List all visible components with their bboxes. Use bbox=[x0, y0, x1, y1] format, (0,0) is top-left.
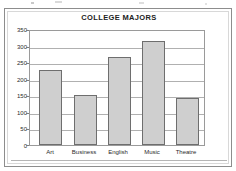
y-axis-tick-label: 150 bbox=[5, 93, 27, 99]
x-axis-tick-labels: Art Business English Music Theatre bbox=[29, 148, 205, 160]
bar-theatre[interactable] bbox=[176, 98, 199, 145]
bars-layer bbox=[30, 31, 204, 145]
y-axis-tick-label: 300 bbox=[5, 44, 27, 50]
bar-art[interactable] bbox=[39, 70, 62, 145]
page-baseline-rule bbox=[11, 160, 227, 161]
bar-english[interactable] bbox=[108, 57, 131, 145]
y-axis-tick-label: 200 bbox=[5, 77, 27, 83]
y-axis-tick-label: 100 bbox=[5, 110, 27, 116]
y-axis-tick-label: 50 bbox=[5, 126, 27, 132]
y-axis-tick-labels: 350 300 250 200 150 100 50 0 bbox=[5, 30, 27, 146]
scanned-page-frame: COLLEGE MAJORS 350 300 250 200 150 100 5… bbox=[4, 8, 232, 167]
y-axis-tick-label: 250 bbox=[5, 60, 27, 66]
bar-business[interactable] bbox=[74, 95, 97, 145]
x-axis-tick-label: Theatre bbox=[165, 148, 207, 156]
y-axis-tick-label: 350 bbox=[5, 27, 27, 33]
plot-area bbox=[29, 30, 205, 146]
y-axis-tick-label: 0 bbox=[5, 143, 27, 149]
bar-chart-figure: COLLEGE MAJORS 350 300 250 200 150 100 5… bbox=[5, 9, 233, 168]
chart-title: COLLEGE MAJORS bbox=[5, 13, 233, 22]
bar-music[interactable] bbox=[142, 41, 165, 145]
